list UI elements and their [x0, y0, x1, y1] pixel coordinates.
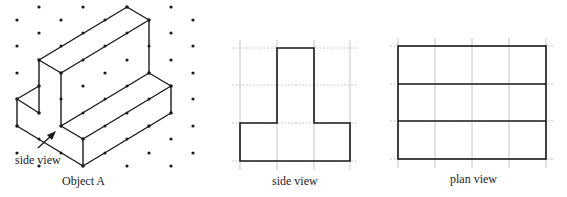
side-view-grid [232, 40, 358, 170]
object-a-caption: Object A [62, 174, 105, 188]
side-view-arrow-icon [38, 131, 56, 148]
plan-view-grid [390, 38, 554, 168]
object-a-figure [15, 5, 194, 168]
diagram-canvas: side view Object A side view plan view [0, 0, 567, 197]
plan-view-caption: plan view [450, 172, 497, 186]
plan-view-figure [390, 38, 554, 168]
side-view-annotation: side view [15, 153, 61, 167]
side-view-outline [240, 48, 350, 161]
side-view-figure [232, 40, 358, 170]
side-view-caption: side view [272, 174, 318, 188]
